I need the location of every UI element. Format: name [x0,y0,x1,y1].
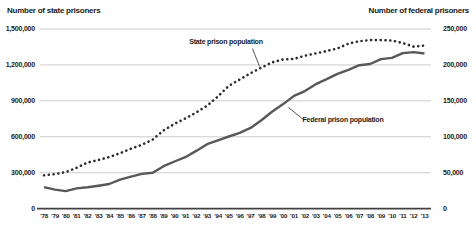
left-axis-tick-label: 0 [0,204,35,214]
right-axis-tick-label: 0 [443,204,476,214]
plot-area [0,0,476,233]
left-axis-tick-label: 1,500,000 [0,24,35,34]
prison-population-chart: Number of state prisoners Number of fede… [0,0,476,233]
left-axis-tick-label: 900,000 [0,96,35,106]
state-series-line [44,40,425,175]
left-axis-tick-label: 300,000 [0,168,35,178]
left-axis-tick-label: 1,200,000 [0,60,35,70]
right-axis-tick-label: 250,000 [443,24,476,34]
right-axis-tick-label: 50,000 [443,168,476,178]
x-axis-tick-label: ’13 [418,211,432,221]
left-axis-tick-label: 600,000 [0,132,35,142]
right-axis-tick-label: 150,000 [443,96,476,106]
right-axis-tick-label: 200,000 [443,60,476,70]
right-axis-tick-label: 100,000 [443,132,476,142]
state-label-callout-line [253,49,260,67]
state-series-label: State prison population [189,38,263,45]
federal-series-label: Federal prison population [303,116,384,123]
